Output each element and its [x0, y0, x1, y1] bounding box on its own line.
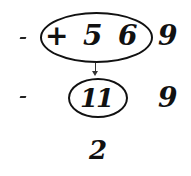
digit-6: 6 — [118, 22, 137, 50]
row2-minus-mark — [20, 96, 27, 98]
plus-operator: + — [45, 22, 68, 50]
number-11: 11 — [80, 85, 112, 111]
result-digit-2: 2 — [89, 137, 107, 163]
arrow-down-icon — [92, 71, 98, 76]
row2-right-digit-9: 9 — [158, 84, 177, 112]
row1-minus-mark — [20, 37, 27, 39]
row1-right-digit-9: 9 — [158, 22, 177, 50]
digit-5: 5 — [83, 22, 102, 50]
